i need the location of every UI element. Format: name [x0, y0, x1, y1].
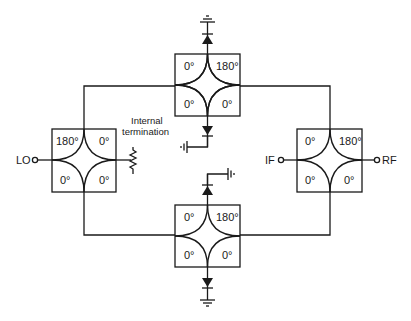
termination-label-line2: termination [122, 126, 169, 137]
port-if-label: IF [265, 154, 275, 166]
hybrid-top-bl-label: 0° [184, 98, 195, 110]
diode-top-upper [200, 16, 215, 54]
diode-bottom-upper [202, 168, 234, 205]
hybrid-left-br-label: 0° [99, 174, 110, 186]
ground-icon [181, 141, 187, 153]
hybrid-bottom-tl-label: 0° [184, 211, 195, 223]
port-rf-label: RF [382, 154, 397, 166]
hybrid-top-tr-label: 180° [216, 60, 239, 72]
diode-icon [202, 35, 213, 44]
hybrid-left-bl-label: 0° [60, 174, 71, 186]
ground-icon [200, 16, 215, 22]
hybrid-top: 0° 180° 0° 0° [175, 54, 240, 116]
port-lo: LO [16, 154, 52, 166]
terminal-icon [32, 157, 37, 162]
ground-icon [228, 168, 234, 180]
hybrid-bottom-bl-label: 0° [184, 249, 195, 261]
diode-bottom-lower [200, 267, 215, 306]
wire-bottom-to-right [240, 192, 330, 235]
hybrid-right: 0° 180° 0° 0° [297, 129, 362, 192]
hybrid-right-bl-label: 0° [305, 174, 316, 186]
diode-icon [202, 186, 213, 195]
port-rf: RF [362, 154, 397, 166]
hybrid-right-tr-label: 180° [339, 135, 362, 147]
hybrid-bottom-tr-label: 180° [216, 211, 239, 223]
diode-icon [202, 278, 213, 287]
termination-label-line1: Internal [131, 115, 163, 126]
wire-left-to-bottom [84, 192, 175, 235]
internal-termination: Internal termination [116, 115, 169, 174]
hybrid-left-tl-label: 180° [56, 135, 79, 147]
hybrid-top-br-label: 0° [222, 98, 233, 110]
hybrid-top-tl-label: 0° [184, 60, 195, 72]
hybrid-right-br-label: 0° [344, 174, 355, 186]
hybrid-left-tr-label: 0° [99, 135, 110, 147]
ground-icon [200, 300, 215, 306]
wire-top-to-right [240, 86, 330, 129]
hybrid-bottom: 0° 180° 0° 0° [175, 205, 240, 267]
hybrid-bottom-br-label: 0° [222, 249, 233, 261]
diode-icon [202, 126, 213, 135]
hybrid-left: 180° 0° 0° 0° [52, 129, 116, 192]
port-if: IF [265, 154, 297, 166]
terminal-icon [374, 157, 379, 162]
resistor-icon [130, 147, 136, 174]
mixer-diagram: 0° 180° 0° 0° 180° 0° 0° [0, 0, 411, 321]
port-lo-label: LO [16, 154, 31, 166]
hybrid-right-tl-label: 0° [305, 135, 316, 147]
terminal-icon [278, 157, 283, 162]
diode-top-lower [181, 116, 213, 153]
